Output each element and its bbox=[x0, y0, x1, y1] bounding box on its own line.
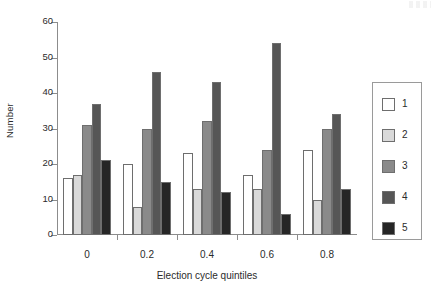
legend-item-label: 2 bbox=[402, 130, 408, 140]
y-tick-label: 40 bbox=[42, 86, 53, 97]
x-tick-mark bbox=[297, 235, 298, 240]
legend-item[interactable]: 4 bbox=[382, 190, 422, 204]
x-tick-label: 0.2 bbox=[140, 249, 154, 260]
y-axis-title: Number bbox=[2, 0, 16, 240]
bar-chart-figure: Number 0102030405060 00.20.40.60.8 Elect… bbox=[0, 0, 434, 304]
x-tick-mark bbox=[117, 235, 118, 240]
legend-item[interactable]: 1 bbox=[382, 97, 422, 111]
bar bbox=[322, 129, 332, 236]
legend-item[interactable]: 5 bbox=[382, 221, 422, 235]
plot-area: 0102030405060 00.20.40.60.8 bbox=[57, 22, 357, 235]
legend-swatch-icon bbox=[382, 98, 395, 111]
bar bbox=[123, 164, 133, 235]
bar bbox=[101, 160, 111, 235]
bar bbox=[243, 175, 253, 235]
bar bbox=[313, 200, 323, 236]
bar bbox=[202, 121, 212, 235]
y-tick-label: 30 bbox=[42, 122, 53, 133]
y-tick-label: 60 bbox=[42, 15, 53, 26]
legend-swatch-icon bbox=[382, 129, 395, 142]
bar bbox=[92, 104, 102, 235]
legend-item-label: 4 bbox=[402, 192, 408, 202]
legend-item-label: 1 bbox=[402, 99, 408, 109]
bar bbox=[221, 192, 231, 235]
bar bbox=[281, 214, 291, 235]
legend: 12345 bbox=[372, 82, 422, 240]
y-tick-label: 0 bbox=[48, 228, 53, 239]
corner-artifact bbox=[409, 1, 431, 8]
y-axis-title-text: Number bbox=[4, 103, 15, 138]
x-tick-mark bbox=[237, 235, 238, 240]
bar bbox=[262, 150, 272, 235]
legend-swatch-icon bbox=[382, 222, 395, 235]
legend-item-label: 3 bbox=[402, 161, 408, 171]
legend-item[interactable]: 3 bbox=[382, 159, 422, 173]
bar bbox=[212, 82, 222, 235]
bar bbox=[272, 43, 282, 235]
x-tick-label: 0 bbox=[84, 249, 90, 260]
bar bbox=[303, 150, 313, 235]
y-axis-line bbox=[57, 22, 58, 235]
legend-item[interactable]: 2 bbox=[382, 128, 422, 142]
bar bbox=[161, 182, 171, 235]
y-tick-label: 50 bbox=[42, 51, 53, 62]
x-tick-label: 0.4 bbox=[200, 249, 214, 260]
bar bbox=[152, 72, 162, 235]
x-tick-label: 0.6 bbox=[260, 249, 274, 260]
bar bbox=[73, 175, 83, 235]
bar bbox=[193, 189, 203, 235]
y-tick-label: 20 bbox=[42, 157, 53, 168]
x-axis-title: Election cycle quintiles bbox=[57, 270, 357, 281]
legend-swatch-icon bbox=[382, 160, 395, 173]
bar bbox=[332, 114, 342, 235]
bar bbox=[82, 125, 92, 235]
x-tick-mark bbox=[177, 235, 178, 240]
bar bbox=[183, 153, 193, 235]
bar bbox=[341, 189, 351, 235]
bar bbox=[253, 189, 263, 235]
legend-item-label: 5 bbox=[402, 223, 408, 233]
bar bbox=[142, 129, 152, 236]
bar bbox=[63, 178, 73, 235]
legend-swatch-icon bbox=[382, 191, 395, 204]
y-tick-label: 10 bbox=[42, 193, 53, 204]
bar bbox=[133, 207, 143, 235]
x-tick-label: 0.8 bbox=[320, 249, 334, 260]
